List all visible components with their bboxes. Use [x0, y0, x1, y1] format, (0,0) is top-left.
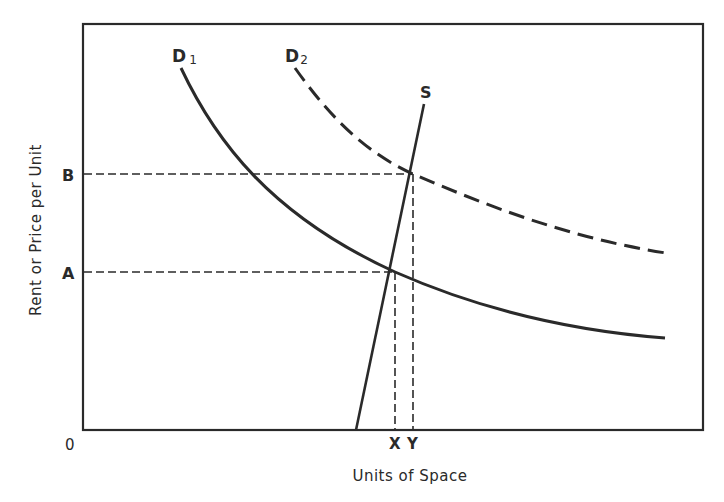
- origin-label: 0: [65, 436, 75, 454]
- quantity-y-label: Y: [406, 435, 419, 453]
- supply-demand-diagram: D1 D2 S B A X Y 0 Units of Space Rent or…: [0, 0, 724, 502]
- x-axis-title: Units of Space: [352, 467, 467, 485]
- d1-label: D1: [172, 46, 197, 67]
- quantity-x-label: X: [389, 435, 401, 453]
- d2-label: D2: [285, 46, 308, 67]
- y-axis-title: Rent or Price per Unit: [27, 144, 45, 316]
- s-label: S: [420, 83, 432, 102]
- plot-frame: [83, 24, 703, 430]
- price-a-label: A: [62, 264, 75, 283]
- price-b-label: B: [62, 166, 74, 185]
- demand-curve-d2: [295, 68, 666, 253]
